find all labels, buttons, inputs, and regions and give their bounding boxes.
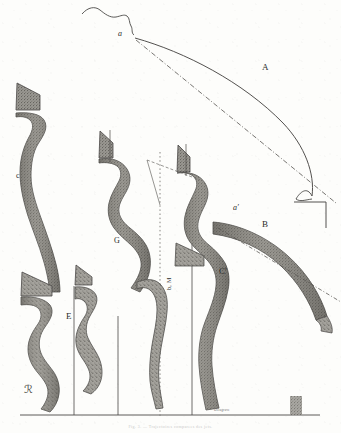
figure-band-G	[99, 130, 150, 292]
label-E: E	[66, 311, 72, 321]
label-A: A	[262, 62, 269, 72]
ink-smudge	[290, 396, 302, 415]
label-c: c	[16, 171, 20, 180]
band-E2-crest	[75, 265, 92, 285]
figure-band-c	[16, 83, 60, 292]
plate-artwork	[0, 0, 341, 433]
engraver-credit: Delagrave	[214, 408, 230, 412]
engraving-plate: a A c a′ B G C′ E b, M ℛ Delagrave Fig. …	[0, 0, 341, 433]
label-B: B	[262, 219, 268, 229]
figure-band-B	[213, 222, 332, 333]
band-G-crest	[99, 131, 113, 158]
band-bM-body	[137, 280, 167, 409]
label-C-prime: C′	[219, 266, 227, 276]
trajectory-A	[82, 8, 313, 201]
band-E2-body	[75, 287, 102, 394]
plate-caption: Fig. 3. — Trajectoires comparees des jet…	[0, 424, 341, 433]
figure-band-Cp	[175, 144, 229, 410]
band-c-crest	[16, 83, 40, 110]
artist-monogram: ℛ	[24, 383, 33, 396]
chord-a-to-bracket	[136, 40, 336, 203]
label-a: a	[118, 29, 122, 38]
label-G: G	[114, 236, 120, 245]
label-b-M: b, M	[166, 277, 172, 290]
band-Cp-crest	[177, 145, 190, 172]
corner-bracket	[294, 202, 326, 228]
figure-band-bM	[137, 280, 167, 409]
figure-band-E2	[75, 265, 102, 394]
label-a-prime: a′	[233, 203, 239, 212]
